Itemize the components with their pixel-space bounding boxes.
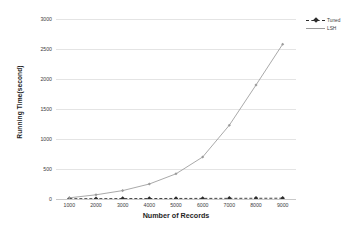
y-axis-ticks: 050010001500200025003000 <box>24 19 52 199</box>
data-point-marker <box>280 196 285 199</box>
y-tick-label: 3000 <box>30 16 52 22</box>
chart-figure: Running Time(second) 0500100015002000250… <box>0 0 360 237</box>
legend-item-lsh[interactable]: LSH <box>306 25 356 32</box>
x-tick-label: 4000 <box>136 201 162 209</box>
data-point-marker <box>174 196 179 199</box>
data-point-marker <box>254 196 259 199</box>
x-axis-ticks: 100020003000400050006000700080009000 <box>56 201 296 211</box>
legend-swatch-tuned <box>306 18 325 24</box>
series-lines <box>56 19 296 199</box>
data-point-marker <box>94 196 99 199</box>
data-point-marker <box>94 193 97 196</box>
data-point-marker <box>147 196 152 199</box>
data-point-marker <box>200 196 205 199</box>
legend-label-lsh: LSH <box>327 26 336 32</box>
y-tick-label: 500 <box>30 166 52 172</box>
y-tick-label: 2500 <box>30 46 52 52</box>
chart-legend: Tuned LSH <box>306 15 356 35</box>
y-tick-label: 1000 <box>30 136 52 142</box>
x-tick-label: 9000 <box>270 201 296 209</box>
x-tick-label: 6000 <box>190 201 216 209</box>
y-tick-label: 2000 <box>30 76 52 82</box>
data-point-marker <box>120 196 125 199</box>
x-axis-title: Number of Records <box>56 211 296 221</box>
plot-area <box>56 19 296 199</box>
legend-label-tuned: Tuned <box>327 18 340 24</box>
x-tick-label: 2000 <box>83 201 109 209</box>
x-tick-label: 8000 <box>243 201 269 209</box>
data-point-marker <box>148 182 151 185</box>
legend-swatch-lsh <box>306 26 325 32</box>
legend-line-solid <box>306 28 325 30</box>
data-point-marker <box>227 196 232 199</box>
legend-item-tuned[interactable]: Tuned <box>306 17 356 24</box>
x-tick-label: 3000 <box>110 201 136 209</box>
x-tick-label: 7000 <box>216 201 242 209</box>
x-tick-label: 5000 <box>163 201 189 209</box>
data-point-marker <box>121 189 124 192</box>
x-tick-label: 1000 <box>56 201 82 209</box>
y-tick-label: 0 <box>30 196 52 202</box>
y-tick-label: 1500 <box>30 106 52 112</box>
